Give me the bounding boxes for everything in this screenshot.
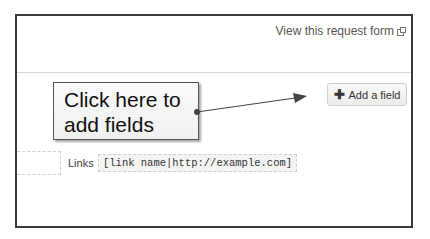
view-request-form-link[interactable]: View this request form: [276, 24, 406, 38]
callout-line-1: Click here to: [64, 87, 188, 112]
callout-line-2: add fields: [64, 112, 188, 137]
links-syntax-example: [link name|http://example.com]: [98, 154, 297, 172]
field-input[interactable]: [17, 151, 61, 175]
annotation-callout: Click here to add fields: [53, 82, 199, 140]
view-request-form-label: View this request form: [276, 24, 395, 38]
add-field-label: Add a field: [349, 89, 401, 101]
links-help-label: Links: [68, 157, 94, 169]
plus-icon: ✚: [334, 88, 345, 101]
section-divider: [17, 72, 411, 73]
add-field-button[interactable]: ✚ Add a field: [327, 83, 407, 106]
external-window-icon: [397, 27, 405, 35]
